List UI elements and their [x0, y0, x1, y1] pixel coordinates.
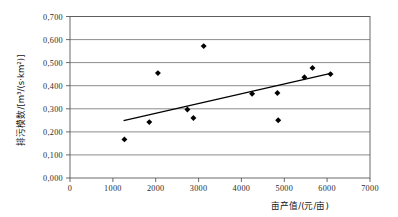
x-axis-tickmarks [70, 178, 370, 182]
y-tick-label: 0,300 [43, 105, 63, 114]
y-axis-tick-labels: 0,700 0,600 0,500 0,400 0,300 0,200 0,10… [43, 13, 63, 184]
y-axis-tickmarks [66, 17, 70, 179]
x-tick-label: 5000 [276, 184, 294, 193]
y-tick-label: 0,000 [43, 174, 63, 183]
y-tick-label: 0,400 [43, 82, 63, 91]
x-tick-label: 1000 [104, 184, 122, 193]
x-tick-label: 3000 [190, 184, 208, 193]
x-tick-label: 0 [68, 184, 72, 193]
scatter-chart-figure: 0,700 0,600 0,500 0,400 0,300 0,200 0,10… [0, 0, 398, 217]
y-axis-title: 排污模数/[m³/(s·km²)] [15, 54, 26, 145]
x-tick-label: 6000 [318, 184, 336, 193]
y-tick-label: 0,600 [43, 36, 63, 45]
y-tick-label: 0,200 [43, 128, 63, 137]
y-tick-label: 0,100 [43, 151, 63, 160]
chart-canvas: 0,700 0,600 0,500 0,400 0,300 0,200 0,10… [0, 0, 398, 217]
x-tick-label: 2000 [147, 184, 165, 193]
plot-background [70, 17, 370, 179]
x-tick-label: 7000 [361, 184, 379, 193]
x-axis-tick-labels: 0 1000 2000 3000 4000 5000 6000 7000 [68, 184, 379, 193]
y-tick-label: 0,700 [43, 13, 63, 22]
x-tick-label: 4000 [233, 184, 251, 193]
y-tick-label: 0,500 [43, 59, 63, 68]
x-axis-title: 亩产值/(元/亩) [271, 200, 329, 211]
